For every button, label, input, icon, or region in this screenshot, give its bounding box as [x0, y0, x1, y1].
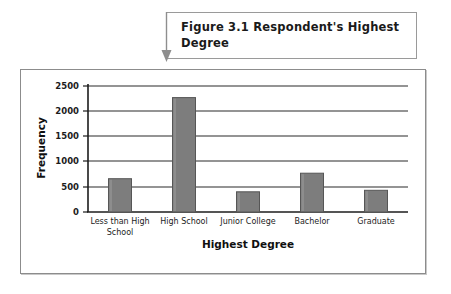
y-axis-title: Frequency	[35, 117, 47, 179]
x-axis-title: Highest Degree	[202, 238, 294, 250]
caption-pointer-arrow	[161, 12, 173, 64]
bar-highlight	[110, 180, 113, 211]
y-tick-label-500: 500	[61, 182, 79, 192]
bar-highlight	[238, 193, 241, 211]
bar-highlight	[302, 174, 305, 211]
y-tick-label-1500: 1500	[55, 131, 79, 141]
figure-caption-text: Figure 3.1 Respondent's Highest Degree	[181, 20, 411, 51]
bars-group	[109, 98, 388, 212]
bar-highlight	[366, 191, 369, 211]
y-tick-label-1000: 1000	[55, 156, 79, 166]
x-tick-label: High School	[160, 217, 208, 226]
x-tick-label: Bachelor	[294, 217, 330, 226]
x-tick-label: Less than HighSchool	[90, 217, 149, 237]
bar-highlight	[174, 99, 177, 211]
y-tick-label-2000: 2000	[55, 106, 79, 116]
y-tick-label-2500: 2500	[55, 81, 79, 91]
x-tick-label: Junior College	[219, 217, 275, 226]
y-tick-label-0: 0	[73, 207, 79, 217]
gridlines	[88, 86, 408, 187]
x-tick-label: Graduate	[357, 217, 395, 226]
figure-caption-box: Figure 3.1 Respondent's Highest Degree	[166, 12, 417, 59]
category-labels: Less than HighSchoolHigh SchoolJunior Co…	[90, 217, 394, 237]
down-arrow-pointer-icon	[162, 50, 172, 62]
